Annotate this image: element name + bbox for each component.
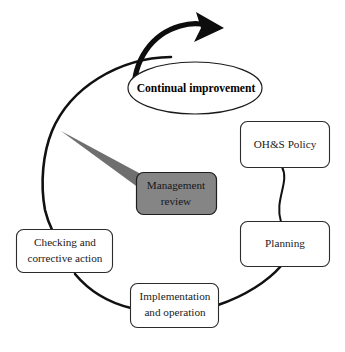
connector-policy-planning bbox=[279, 167, 284, 222]
ohs-policy-label: OH&S Policy bbox=[254, 138, 317, 150]
management-review-label-line1: Management bbox=[147, 179, 206, 191]
checking-label-line2: corrective action bbox=[28, 252, 103, 264]
diagram-canvas: Continual improvement OH&S Policy Planni… bbox=[0, 0, 345, 352]
cycle-diagram: Continual improvement OH&S Policy Planni… bbox=[0, 0, 345, 352]
planning-label: Planning bbox=[265, 237, 305, 249]
checking-label-line1: Checking and bbox=[34, 236, 96, 248]
implementation-label-line2: and operation bbox=[144, 306, 206, 318]
node-management-review[interactable]: Management review bbox=[137, 173, 217, 215]
continual-improvement-label: Continual improvement bbox=[137, 82, 256, 95]
arrow-head-icon bbox=[194, 12, 224, 42]
node-planning[interactable]: Planning bbox=[241, 222, 330, 267]
management-review-label-line2: review bbox=[161, 195, 192, 207]
arc-bottom-left bbox=[75, 274, 131, 308]
implementation-label-line1: Implementation bbox=[140, 290, 211, 302]
arc-bottom-right bbox=[218, 266, 281, 305]
node-ohs-policy[interactable]: OH&S Policy bbox=[241, 122, 330, 168]
node-implementation[interactable]: Implementation and operation bbox=[131, 284, 219, 328]
node-continual-improvement[interactable]: Continual improvement bbox=[128, 62, 262, 114]
node-checking[interactable]: Checking and corrective action bbox=[17, 230, 113, 273]
